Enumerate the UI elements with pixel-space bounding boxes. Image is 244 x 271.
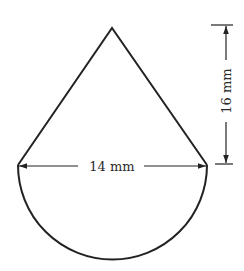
width-dimension: 14 mm: [19, 159, 206, 174]
composite-shape-diagram: 14 mm 16 mm: [0, 0, 244, 271]
height-label: 16 mm: [219, 68, 234, 113]
width-label: 14 mm: [89, 159, 134, 174]
height-dimension: 16 mm: [211, 25, 234, 164]
triangle-outline: [18, 28, 207, 165]
semicircle-outline: [18, 165, 207, 260]
